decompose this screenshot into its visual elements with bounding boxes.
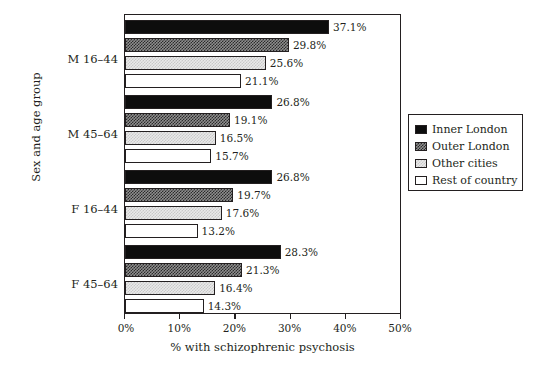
bar-other-cities-0[interactable] [125, 56, 266, 70]
bar-rest-of-country-2[interactable] [125, 224, 198, 238]
x-tick-label-5: 50% [388, 322, 411, 334]
bar-outer-london-1[interactable] [125, 113, 230, 127]
legend-swatch-outer-london [415, 142, 427, 151]
legend-swatch-other-cities [415, 159, 427, 168]
bar-other-cities-2[interactable] [125, 206, 222, 220]
y-tick-label-3: F 45–64 [42, 277, 118, 291]
bar-value-label-2-3: 13.2% [202, 224, 235, 238]
bar-outer-london-2[interactable] [125, 188, 233, 202]
legend-item-inner-london[interactable]: Inner London [415, 121, 522, 138]
bar-value-label-1-3: 15.7% [215, 149, 248, 163]
plot-area: 37.1% 29.8% 25.6% 21.1% 26.8% 19.1% 16.5… [124, 14, 400, 314]
x-tick-label-2: 20% [223, 322, 246, 334]
x-tick-label-0: 0% [118, 322, 135, 334]
legend-swatch-inner-london [415, 125, 427, 134]
bar-value-label-0-0: 37.1% [333, 20, 366, 34]
bar-value-label-0-2: 25.6% [270, 56, 303, 70]
bar-value-label-3-3: 14.3% [208, 299, 241, 313]
legend-label-rest-of-country: Rest of country [432, 174, 517, 187]
y-tick-label-0: M 16–44 [42, 52, 118, 66]
bar-inner-london-1[interactable] [125, 95, 272, 109]
bar-value-label-3-2: 16.4% [219, 281, 252, 295]
x-tick-5 [400, 314, 401, 319]
bar-inner-london-0[interactable] [125, 20, 329, 34]
bar-value-label-0-3: 21.1% [245, 74, 278, 88]
legend-label-inner-london: Inner London [432, 123, 508, 136]
bar-value-label-2-1: 19.7% [237, 188, 270, 202]
bar-value-label-1-2: 16.5% [220, 131, 253, 145]
x-tick-label-3: 30% [278, 322, 301, 334]
bar-outer-london-3[interactable] [125, 263, 242, 277]
x-tick-0 [124, 314, 125, 319]
bar-value-label-0-1: 29.8% [293, 38, 326, 52]
legend-item-other-cities[interactable]: Other cities [415, 155, 522, 172]
legend-label-other-cities: Other cities [432, 157, 498, 170]
bar-inner-london-3[interactable] [125, 245, 281, 259]
bar-inner-london-2[interactable] [125, 170, 272, 184]
legend-item-outer-london[interactable]: Outer London [415, 138, 522, 155]
bar-value-label-2-0: 26.8% [276, 170, 309, 184]
legend: Inner London Outer London Other cities R… [408, 114, 523, 191]
legend-item-rest-of-country[interactable]: Rest of country [415, 172, 522, 189]
plot-border-right [400, 14, 401, 314]
x-tick-1 [179, 314, 180, 319]
x-tick-label-4: 40% [333, 322, 356, 334]
legend-label-outer-london: Outer London [432, 140, 510, 153]
legend-swatch-rest-of-country [415, 176, 427, 185]
bar-other-cities-1[interactable] [125, 131, 216, 145]
x-tick-4 [345, 314, 346, 319]
bar-value-label-2-2: 17.6% [226, 206, 259, 220]
bar-other-cities-3[interactable] [125, 281, 215, 295]
bar-rest-of-country-1[interactable] [125, 149, 211, 163]
bar-value-label-1-0: 26.8% [276, 95, 309, 109]
y-tick-label-1: M 45–64 [42, 127, 118, 141]
bar-rest-of-country-3[interactable] [125, 299, 204, 313]
bar-outer-london-0[interactable] [125, 38, 289, 52]
y-tick-label-2: F 16–44 [42, 202, 118, 216]
bar-value-label-1-1: 19.1% [234, 113, 267, 127]
x-tick-2 [234, 314, 235, 319]
y-axis-tick-labels: M 16–44 M 45–64 F 16–44 F 45–64 [40, 0, 118, 370]
plot-border-top [124, 14, 401, 15]
bar-value-label-3-1: 21.3% [246, 263, 279, 277]
bar-rest-of-country-0[interactable] [125, 74, 241, 88]
bar-value-label-3-0: 28.3% [285, 245, 318, 259]
x-tick-label-1: 10% [168, 322, 191, 334]
chart-figure: Sex and age group M 16–44 M 45–64 F 16–4… [0, 0, 544, 370]
x-tick-3 [290, 314, 291, 319]
x-axis-title: % with schizophrenic psychosis [124, 340, 401, 354]
